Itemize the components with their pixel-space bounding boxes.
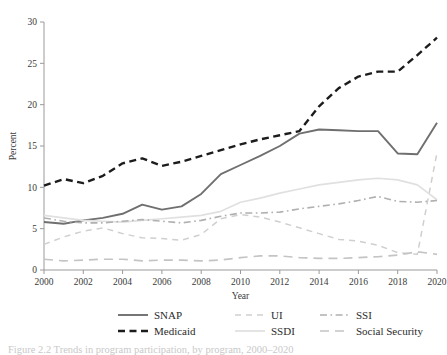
y-tick-label: 10 — [28, 183, 38, 193]
x-axis-title: Year — [232, 291, 250, 301]
y-tick-label: 5 — [32, 224, 37, 234]
y-axis-title: Percent — [8, 131, 18, 160]
x-tick-label: 2000 — [35, 277, 54, 287]
series-line-ui — [44, 153, 437, 255]
x-tick-label: 2018 — [388, 277, 407, 287]
figure-caption: Figure 2.2 Trends in program participati… — [8, 344, 444, 355]
legend-label-medicaid[interactable]: Medicaid — [154, 325, 196, 337]
x-tick-label: 2006 — [152, 277, 171, 287]
x-tick-label: 2002 — [74, 277, 93, 287]
y-tick-label: 20 — [28, 100, 38, 110]
x-tick-label: 2010 — [231, 277, 250, 287]
y-tick-label: 0 — [32, 265, 37, 275]
x-tick-label: 2014 — [310, 277, 329, 287]
x-tick-label: 2012 — [270, 277, 289, 287]
x-tick-label: 2020 — [428, 277, 447, 287]
legend-label-ssi[interactable]: SSI — [356, 309, 372, 321]
legend-label-ssdi[interactable]: SSDI — [271, 325, 295, 337]
y-tick-label: 15 — [28, 141, 38, 151]
x-tick-label: 2008 — [192, 277, 211, 287]
x-tick-label: 2016 — [349, 277, 368, 287]
x-tick-label: 2004 — [113, 277, 132, 287]
y-tick-label: 25 — [28, 59, 38, 69]
legend-label-ui[interactable]: UI — [271, 309, 283, 321]
series-line-ssi — [44, 196, 437, 222]
legend-label-snap[interactable]: SNAP — [154, 309, 182, 321]
legend-label-social-security[interactable]: Social Security — [356, 325, 423, 337]
series-line-ssdi — [44, 178, 437, 222]
series-line-social-security — [44, 252, 437, 261]
y-tick-label: 30 — [28, 17, 38, 27]
series-line-snap — [44, 123, 437, 224]
series-line-medicaid — [44, 38, 437, 186]
